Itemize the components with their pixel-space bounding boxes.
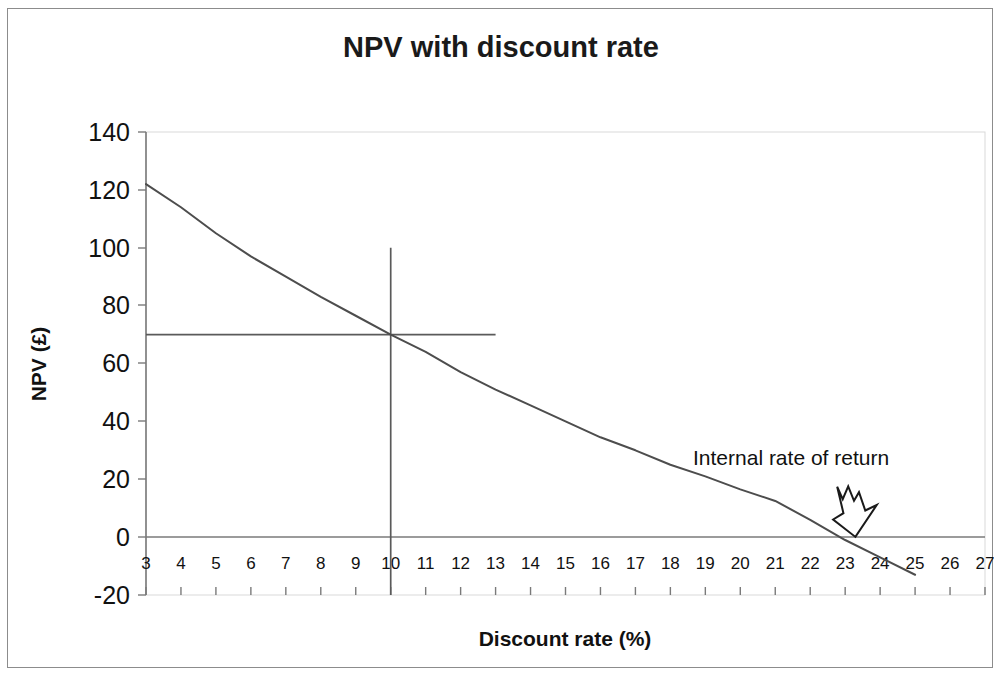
x-tick-label: 3	[141, 554, 150, 573]
x-axis-title: Discount rate (%)	[479, 627, 652, 650]
x-tick-label: 20	[731, 554, 750, 573]
y-tick-label: 100	[88, 234, 130, 262]
x-tick-label: 22	[801, 554, 820, 573]
internal-rate-of-return-label: Internal rate of return	[693, 446, 889, 469]
y-tick-label: 0	[116, 523, 130, 551]
x-tick-label: 15	[556, 554, 575, 573]
x-tick-label: 13	[486, 554, 505, 573]
x-tick-label: 19	[696, 554, 715, 573]
x-tick-label: 9	[351, 554, 360, 573]
x-tick-label: 17	[626, 554, 645, 573]
y-tick-label: -20	[94, 581, 130, 609]
x-tick-labels: 3456789101112131415161718192021222324252…	[141, 554, 994, 573]
y-tick-label: 140	[88, 118, 130, 146]
y-tick-marks	[138, 132, 146, 595]
y-tick-label: 60	[102, 349, 130, 377]
y-tick-labels: 140 120 100 80 60 40 20 0 -20	[88, 118, 130, 609]
x-tick-label: 25	[906, 554, 925, 573]
x-tick-label: 11	[417, 554, 435, 573]
y-tick-label: 40	[102, 407, 130, 435]
chart-frame: NPV with discount rate 140 120 100 80 60	[7, 8, 993, 668]
x-tick-label: 6	[246, 554, 255, 573]
x-tick-label: 18	[661, 554, 680, 573]
x-tick-label: 12	[451, 554, 470, 573]
x-tick-label: 4	[176, 554, 185, 573]
x-tick-label: 23	[836, 554, 855, 573]
x-tick-label: 14	[521, 554, 540, 573]
x-tick-label: 8	[316, 554, 325, 573]
x-tick-label: 16	[591, 554, 610, 573]
x-tick-marks	[146, 587, 985, 595]
x-tick-label: 21	[766, 554, 785, 573]
y-tick-label: 20	[102, 465, 130, 493]
internal-rate-of-return-arrow-icon	[829, 482, 880, 539]
y-axis-title: NPV (£)	[27, 327, 50, 402]
x-tick-label: 5	[211, 554, 220, 573]
x-tick-label: 26	[941, 554, 960, 573]
y-tick-label: 80	[102, 291, 130, 319]
y-tick-label: 120	[88, 176, 130, 204]
x-tick-label: 27	[976, 554, 994, 573]
npv-data-curve	[146, 184, 915, 575]
npv-line-chart: 140 120 100 80 60 40 20 0 -20 3456789101…	[8, 9, 994, 669]
x-tick-label: 7	[281, 554, 290, 573]
